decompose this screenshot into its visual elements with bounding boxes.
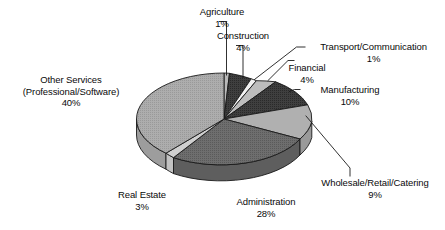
label-administration: Administration 28% bbox=[223, 196, 309, 219]
label-financial: Financial 4% bbox=[274, 62, 340, 85]
label-agriculture-value: 1% bbox=[184, 18, 260, 30]
label-financial-name: Financial bbox=[274, 62, 340, 74]
label-transport-name: Transport/Communication bbox=[307, 41, 440, 53]
label-other-services-value: 40% bbox=[6, 97, 136, 109]
label-wholesale: Wholesale/Retail/Catering 9% bbox=[309, 177, 441, 200]
label-real-estate-value: 3% bbox=[104, 201, 180, 213]
label-real-estate-name: Real Estate bbox=[104, 189, 180, 201]
label-real-estate: Real Estate 3% bbox=[104, 189, 180, 212]
pie-chart: Agriculture 1% Construction 4% Transport… bbox=[0, 0, 445, 230]
label-manufacturing: Manufacturing 10% bbox=[307, 84, 393, 107]
label-other-services-name-line2: (Professional/Software) bbox=[6, 86, 136, 98]
label-manufacturing-name: Manufacturing bbox=[307, 84, 393, 96]
label-construction-name: Construction bbox=[205, 30, 281, 42]
label-administration-name: Administration bbox=[223, 196, 309, 208]
label-agriculture-name: Agriculture bbox=[184, 6, 260, 18]
label-administration-value: 28% bbox=[223, 208, 309, 220]
leader-wholesale bbox=[306, 116, 350, 176]
label-construction: Construction 4% bbox=[205, 30, 281, 53]
label-construction-value: 4% bbox=[205, 42, 281, 54]
label-transport: Transport/Communication 1% bbox=[307, 41, 440, 64]
label-manufacturing-value: 10% bbox=[307, 96, 393, 108]
label-agriculture: Agriculture 1% bbox=[184, 6, 260, 29]
label-other-services: Other Services (Professional/Software) 4… bbox=[6, 74, 136, 109]
label-wholesale-name: Wholesale/Retail/Catering bbox=[309, 177, 441, 189]
label-other-services-name-line1: Other Services bbox=[6, 74, 136, 86]
label-wholesale-value: 9% bbox=[309, 189, 441, 201]
